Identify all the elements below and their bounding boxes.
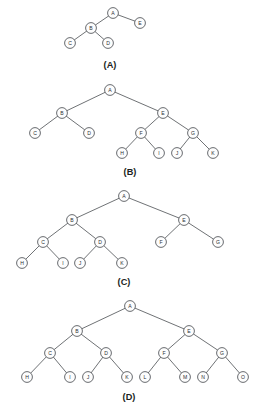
node-label: D bbox=[106, 40, 110, 46]
tree-node: J bbox=[75, 258, 86, 269]
tree-node: F bbox=[136, 128, 147, 139]
node-label: C bbox=[33, 130, 37, 136]
edge-group bbox=[74, 15, 135, 40]
node-group: AEBCD bbox=[65, 8, 146, 49]
tree-edge bbox=[54, 334, 73, 349]
tree-edge bbox=[126, 137, 138, 149]
tree-node: E bbox=[135, 18, 146, 29]
tree-edge bbox=[135, 308, 184, 329]
tree-node: A bbox=[105, 85, 116, 96]
tree-node: J bbox=[172, 148, 183, 159]
tree-node: E bbox=[179, 215, 190, 226]
tree-edge bbox=[66, 116, 84, 130]
tree-node: A bbox=[125, 301, 136, 312]
diagram-caption: (B) bbox=[124, 167, 137, 177]
tree-edge bbox=[39, 116, 57, 130]
tree-node: F bbox=[156, 237, 167, 248]
node-label: O bbox=[241, 374, 245, 380]
edge-group bbox=[39, 92, 209, 149]
tree-node: E bbox=[158, 108, 169, 119]
diagram-caption: (D) bbox=[123, 392, 136, 402]
node-label: J bbox=[87, 374, 90, 380]
tree-edge bbox=[81, 334, 101, 349]
node-label: E bbox=[161, 110, 165, 116]
tree-node: G bbox=[217, 348, 228, 359]
tree-node: I bbox=[58, 258, 69, 269]
node-label: J bbox=[79, 260, 82, 266]
tree-edge bbox=[91, 357, 103, 372]
tree-edge bbox=[84, 246, 97, 259]
tree-edge bbox=[26, 246, 39, 259]
node-label: E bbox=[138, 20, 142, 26]
node-label: C bbox=[41, 239, 45, 245]
node-label: F bbox=[162, 350, 165, 356]
tree-edge bbox=[180, 137, 189, 149]
node-label: A bbox=[128, 303, 132, 309]
tree-a: AEBCD(A) bbox=[65, 8, 146, 70]
node-label: A bbox=[122, 193, 126, 199]
tree-node: K bbox=[208, 148, 219, 159]
tree-node: A bbox=[108, 8, 119, 19]
tree-edge bbox=[167, 116, 188, 130]
node-label: D bbox=[87, 130, 91, 136]
node-label: H bbox=[120, 150, 124, 156]
node-label: H bbox=[25, 374, 29, 380]
tree-node: G bbox=[213, 237, 224, 248]
tree-b: ABECDFGHIJK(B) bbox=[30, 85, 219, 177]
tree-node: D bbox=[103, 38, 114, 49]
node-label: B bbox=[60, 110, 64, 116]
node-label: C bbox=[48, 350, 52, 356]
node-group: ABECDFGHIJKLMNO bbox=[22, 301, 249, 383]
tree-edge bbox=[31, 357, 47, 373]
tree-edge bbox=[74, 31, 86, 40]
tree-node: B bbox=[57, 108, 68, 119]
tree-node: M bbox=[180, 372, 191, 383]
node-label: J bbox=[176, 150, 179, 156]
tree-node: D bbox=[95, 237, 106, 248]
tree-edge bbox=[206, 357, 218, 373]
tree-node: B bbox=[72, 326, 83, 337]
node-label: K bbox=[120, 260, 124, 266]
diagram-caption: (A) bbox=[104, 60, 117, 70]
node-label: G bbox=[191, 130, 195, 136]
tree-node: I bbox=[154, 148, 165, 159]
tree-node: C bbox=[65, 38, 76, 49]
node-label: I bbox=[158, 150, 159, 156]
tree-edge bbox=[104, 246, 118, 260]
binary-tree-figure: AEBCD(A)ABECDFGHIJK(B)ABECDFGHIJK(C)ABEC… bbox=[0, 0, 262, 420]
tree-node: G bbox=[188, 128, 199, 139]
tree-node: D bbox=[101, 348, 112, 359]
tree-node: D bbox=[84, 128, 95, 139]
edge-group bbox=[31, 308, 240, 373]
tree-edge bbox=[168, 335, 185, 350]
node-label: F bbox=[159, 239, 162, 245]
node-label: B bbox=[75, 328, 79, 334]
node-label: C bbox=[68, 40, 72, 46]
tree-edge bbox=[115, 92, 158, 111]
node-label: K bbox=[211, 150, 215, 156]
node-label: D bbox=[98, 239, 102, 245]
tree-node: J bbox=[83, 372, 94, 383]
tree-edge bbox=[129, 198, 179, 218]
node-label: F bbox=[139, 130, 142, 136]
tree-node: F bbox=[159, 348, 170, 359]
node-label: N bbox=[201, 374, 205, 380]
tree-node: H bbox=[17, 258, 28, 269]
tree-edge bbox=[148, 357, 160, 373]
node-label: I bbox=[62, 260, 63, 266]
tree-edge bbox=[47, 246, 60, 259]
tree-node: H bbox=[117, 148, 128, 159]
tree-d: ABECDFGHIJKLMNO(D) bbox=[22, 301, 249, 402]
diagram-caption: (C) bbox=[118, 277, 131, 287]
node-label: G bbox=[216, 239, 220, 245]
tree-edge bbox=[197, 137, 209, 149]
node-label: B bbox=[89, 25, 93, 31]
tree-node: E bbox=[184, 326, 195, 337]
node-label: K bbox=[125, 374, 129, 380]
tree-node: B bbox=[67, 215, 78, 226]
node-label: G bbox=[220, 350, 224, 356]
tree-edge bbox=[110, 357, 124, 373]
tree-edge bbox=[47, 223, 67, 238]
tree-node: K bbox=[122, 372, 133, 383]
tree-edge bbox=[165, 224, 180, 239]
